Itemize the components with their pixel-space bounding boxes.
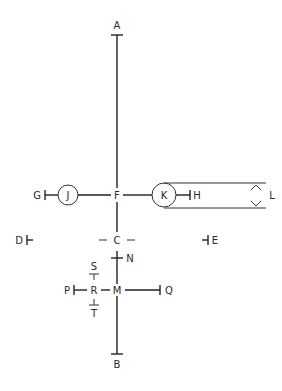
axis-top-segment (111, 35, 123, 232)
label-d: D (15, 235, 23, 246)
label-n: N (126, 253, 133, 264)
label-b: B (114, 359, 121, 370)
label-m: M (113, 285, 122, 296)
label-e: E (212, 235, 218, 246)
axis-bottom-segment (111, 251, 123, 354)
label-j: J (66, 190, 70, 201)
label-f: F (114, 190, 120, 201)
label-t: T (90, 308, 98, 319)
label-c: C (114, 235, 121, 246)
label-k: K (161, 190, 168, 201)
label-p: P (64, 285, 70, 296)
label-a: A (114, 20, 121, 31)
f-row (45, 183, 266, 208)
label-h: H (193, 190, 201, 201)
chevron-down-icon (251, 201, 261, 206)
label-s: S (91, 261, 97, 272)
label-l: L (269, 190, 275, 201)
label-q: Q (165, 285, 173, 296)
chevron-up-icon (251, 185, 261, 190)
label-g: G (33, 190, 41, 201)
diagram-canvas: A G J F K H L C D E N B (0, 0, 282, 391)
label-r: R (91, 285, 98, 296)
